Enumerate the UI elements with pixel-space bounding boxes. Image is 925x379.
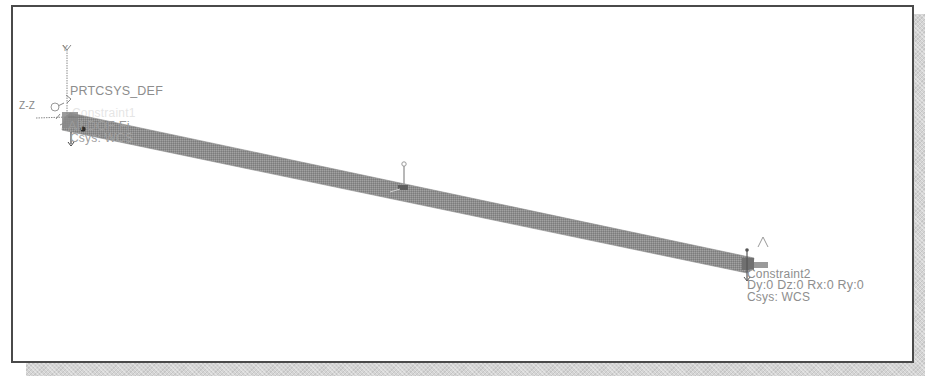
model-viewport[interactable] (11, 5, 914, 363)
